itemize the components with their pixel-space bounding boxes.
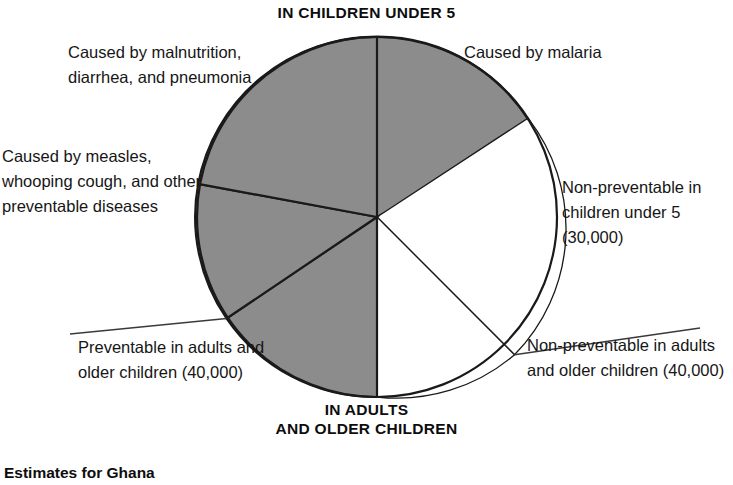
chart-title-adults-line2: AND OLDER CHILDREN: [0, 419, 733, 438]
slice-label-preventable-adults: Preventable in adults and older children…: [78, 335, 268, 385]
figure-caption: Estimates for Ghana: [4, 464, 155, 482]
slice-label-nonpreventable-adults: Non-preventable in adults and older chil…: [527, 333, 727, 383]
chart-title-children: IN CHILDREN UNDER 5: [0, 3, 733, 22]
slice-label-malnutrition: Caused by malnutrition, diarrhea, and pn…: [68, 40, 308, 90]
pie-chart-figure: IN CHILDREN UNDER 5 IN ADULTS AND OLDER …: [0, 0, 733, 485]
slice-label-malaria: Caused by malaria: [464, 40, 694, 65]
slice-label-measles: Caused by measles, whooping cough, and o…: [2, 144, 212, 219]
slice-label-nonpreventable-children: Non-preventable in children under 5 (30,…: [562, 175, 733, 250]
chart-title-adults: IN ADULTS AND OLDER CHILDREN: [0, 400, 733, 438]
chart-title-adults-line1: IN ADULTS: [0, 400, 733, 419]
leader-line-left: [70, 319, 227, 335]
